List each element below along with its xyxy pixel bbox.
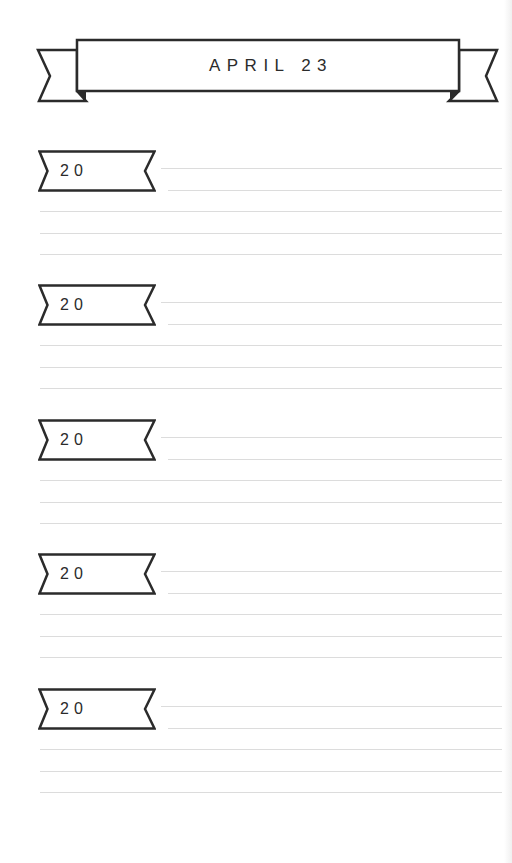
writing-line[interactable] xyxy=(161,302,502,303)
writing-line[interactable] xyxy=(161,706,502,707)
writing-line[interactable] xyxy=(161,571,502,572)
year-entry: 20 xyxy=(0,284,512,394)
year-ribbon-icon xyxy=(38,688,156,730)
writing-line[interactable] xyxy=(40,657,502,658)
writing-line[interactable] xyxy=(168,593,502,594)
writing-line[interactable] xyxy=(168,324,502,325)
year-entry: 20 xyxy=(0,688,512,798)
journal-page: APRIL 23 20 20 xyxy=(0,0,512,863)
year-entry: 20 xyxy=(0,150,512,260)
year-ribbon-icon xyxy=(38,284,156,326)
year-ribbon-icon xyxy=(38,419,156,461)
writing-line[interactable] xyxy=(40,636,502,637)
writing-line[interactable] xyxy=(40,523,502,524)
year-label: 20 xyxy=(60,150,88,192)
writing-line[interactable] xyxy=(40,345,502,346)
year-tag[interactable]: 20 xyxy=(38,688,156,730)
writing-line[interactable] xyxy=(40,792,502,793)
year-tag[interactable]: 20 xyxy=(38,150,156,192)
header-ribbon: APRIL 23 xyxy=(0,0,512,120)
writing-line[interactable] xyxy=(40,233,502,234)
year-tag[interactable]: 20 xyxy=(38,419,156,461)
writing-line[interactable] xyxy=(168,459,502,460)
year-label: 20 xyxy=(60,688,88,730)
page-edge-shadow xyxy=(504,0,512,863)
year-ribbon-icon xyxy=(38,150,156,192)
writing-line[interactable] xyxy=(168,728,502,729)
year-entry: 20 xyxy=(0,553,512,663)
writing-line[interactable] xyxy=(161,168,502,169)
writing-line[interactable] xyxy=(40,367,502,368)
year-tag[interactable]: 20 xyxy=(38,284,156,326)
writing-line[interactable] xyxy=(161,437,502,438)
year-tag[interactable]: 20 xyxy=(38,553,156,595)
year-entry: 20 xyxy=(0,419,512,529)
year-label: 20 xyxy=(60,553,88,595)
writing-line[interactable] xyxy=(168,190,502,191)
writing-line[interactable] xyxy=(40,480,502,481)
writing-line[interactable] xyxy=(40,749,502,750)
writing-line[interactable] xyxy=(40,211,502,212)
year-label: 20 xyxy=(60,284,88,326)
year-ribbon-icon xyxy=(38,553,156,595)
writing-line[interactable] xyxy=(40,388,502,389)
writing-line[interactable] xyxy=(40,254,502,255)
page-title: APRIL 23 xyxy=(77,40,459,91)
writing-line[interactable] xyxy=(40,502,502,503)
year-label: 20 xyxy=(60,419,88,461)
writing-line[interactable] xyxy=(40,771,502,772)
writing-line[interactable] xyxy=(40,614,502,615)
